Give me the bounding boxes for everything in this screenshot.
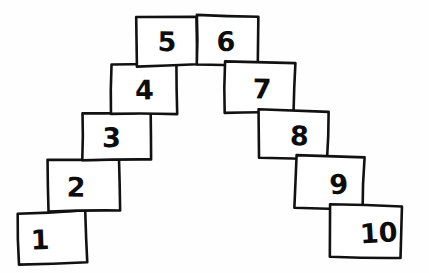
block-number-5: 5	[158, 26, 177, 57]
block-number-4: 4	[135, 74, 155, 106]
block-7[interactable]: 7	[224, 61, 296, 114]
block-outline-1	[17, 210, 87, 264]
block-arch-diagram: 12345678910	[0, 0, 429, 273]
block-4[interactable]: 4	[110, 63, 178, 115]
block-number-7: 7	[252, 73, 271, 104]
block-number-1: 1	[30, 224, 50, 256]
block-3[interactable]: 3	[81, 112, 151, 161]
block-number-6: 6	[216, 26, 236, 58]
block-5[interactable]: 5	[136, 16, 197, 67]
block-2[interactable]: 2	[47, 158, 120, 212]
block-number-10: 10	[359, 216, 398, 249]
blocks-layer: 12345678910	[17, 15, 402, 265]
diagram-canvas: 12345678910	[0, 0, 429, 273]
block-10[interactable]: 10	[329, 204, 402, 259]
block-number-3: 3	[102, 122, 121, 153]
block-number-9: 9	[328, 168, 349, 200]
block-1[interactable]: 1	[17, 210, 87, 264]
block-number-2: 2	[66, 171, 85, 202]
block-6[interactable]: 6	[196, 15, 258, 65]
block-8[interactable]: 8	[258, 109, 329, 160]
block-number-8: 8	[290, 120, 310, 151]
block-9[interactable]: 9	[294, 155, 364, 210]
